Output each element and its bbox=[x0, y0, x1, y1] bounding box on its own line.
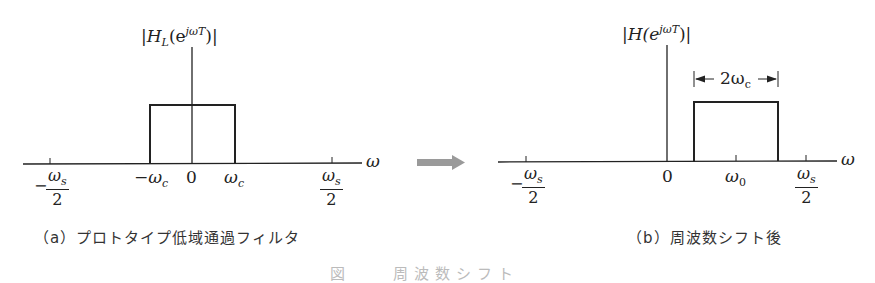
ylabel-a-close: )| bbox=[205, 26, 217, 46]
w0: ω bbox=[725, 166, 739, 186]
panel-a-tick-label-wc: ωc bbox=[224, 169, 244, 189]
panel-a-tick-label-neg-wc: −ωc bbox=[134, 169, 168, 189]
panel-b-tick-label-w0: ω0 bbox=[725, 168, 746, 188]
figure-caption: 図 周波数シフト bbox=[330, 262, 519, 283]
ws-den: 2 bbox=[52, 190, 62, 208]
panel-a-y-label: |HL(ejωT)| bbox=[141, 26, 218, 48]
panel-a-tick-label-zero: 0 bbox=[186, 169, 197, 186]
w0-sub: 0 bbox=[739, 176, 746, 189]
ylabel-b-sup: jωT bbox=[659, 23, 679, 36]
panel-b-y-label: |H(ejωT)| bbox=[622, 24, 691, 43]
ws-den: 2 bbox=[326, 190, 336, 208]
ws-sub: s bbox=[335, 175, 341, 188]
ylabel-a-sub: L bbox=[162, 36, 169, 49]
ylabel-a-main: |H bbox=[141, 26, 162, 46]
ylabel-a-arg: (e bbox=[169, 26, 186, 46]
panel-b-filter-rect bbox=[694, 102, 778, 162]
ws-den: 2 bbox=[801, 188, 811, 206]
panel-a-caption: （a）プロトタイプ低域通過フィルタ bbox=[34, 226, 300, 247]
ws-num: ω bbox=[797, 164, 810, 183]
panel-b-tick-label-neg-ws: − ωs 2 bbox=[522, 166, 545, 206]
ws-sub: s bbox=[537, 173, 543, 186]
panel-b-tick-label-ws: ωs 2 bbox=[795, 166, 818, 206]
ylabel-b-main: |H(e bbox=[622, 24, 659, 44]
panel-b-tick-label-zero: 0 bbox=[662, 168, 673, 185]
neg-sign: − bbox=[510, 176, 523, 192]
neg-wc: −ω bbox=[134, 167, 162, 187]
panel-b-x-label: ω bbox=[841, 151, 855, 168]
ws-sub: s bbox=[810, 173, 816, 186]
wc: ω bbox=[224, 167, 238, 187]
bandwidth-sub: c bbox=[745, 78, 751, 91]
bandwidth-text: 2ω bbox=[720, 68, 745, 88]
ws-num: ω bbox=[48, 166, 61, 185]
ws-den: 2 bbox=[528, 188, 538, 206]
ylabel-b-close: )| bbox=[679, 24, 691, 44]
ylabel-a-sup: jωT bbox=[186, 25, 206, 38]
wc-sub: c bbox=[238, 177, 244, 190]
neg-wc-sub: c bbox=[162, 177, 168, 190]
bandwidth-label: 2ωc bbox=[720, 70, 751, 90]
panel-b-plot bbox=[498, 45, 837, 162]
ws-num: ω bbox=[524, 164, 537, 183]
neg-sign: − bbox=[34, 178, 47, 194]
shift-arrow bbox=[417, 155, 465, 170]
ws-num: ω bbox=[322, 166, 335, 185]
panel-a-x-label: ω bbox=[366, 153, 380, 170]
panel-b-caption: （b）周波数シフト後 bbox=[627, 226, 782, 247]
ws-sub: s bbox=[61, 175, 67, 188]
panel-a-plot bbox=[23, 47, 362, 164]
panel-a-tick-label-ws: ωs 2 bbox=[320, 168, 343, 208]
panel-a-tick-label-neg-ws: − ωs 2 bbox=[46, 168, 69, 208]
